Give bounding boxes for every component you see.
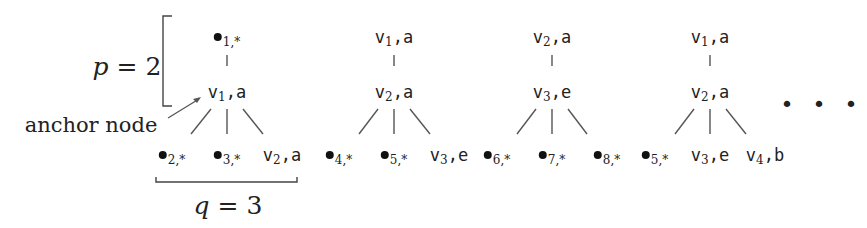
anchor-node-label: anchor node xyxy=(25,113,158,137)
tree-3-root-node: v2,a xyxy=(533,27,571,49)
null-node-dot-icon xyxy=(214,33,222,41)
null-node-dot-icon xyxy=(381,151,389,159)
tree-2-child-node: 4,* xyxy=(326,145,352,167)
tree-3-anchor-node: v3,e xyxy=(533,82,571,104)
tree-3-child-node: 7,* xyxy=(539,145,565,167)
tree-2-anchor-node: v2,a xyxy=(375,82,413,104)
ellipsis-more-trees: • • • xyxy=(781,92,864,117)
null-node-dot-icon xyxy=(594,151,602,159)
tree-4-child-node: v4,b xyxy=(746,145,784,167)
tree-1-child-node: v2,a xyxy=(263,145,301,167)
tree-1-child-node: 3,* xyxy=(214,145,240,167)
null-node-dot-icon xyxy=(159,151,167,159)
tree-4-anchor-node: v2,a xyxy=(691,82,729,104)
tree-3-child-node: 6,* xyxy=(484,145,510,167)
tree-4-root-node: v1,a xyxy=(691,27,729,49)
tree-1-root-node: 1,* xyxy=(214,27,240,49)
anchor-arrow xyxy=(168,99,199,118)
tree-2-child-node: 5,* xyxy=(381,145,407,167)
tree-1-anchor-node: v1,a xyxy=(208,82,246,104)
p-label: p = 2 xyxy=(93,52,162,81)
q-bracket xyxy=(156,177,297,182)
tree-4-child-node: v3,e xyxy=(691,145,729,167)
p-value: 2 xyxy=(145,52,161,81)
tree-4-child-node: 5,* xyxy=(642,145,668,167)
null-node-dot-icon xyxy=(642,151,650,159)
q-label: q = 3 xyxy=(194,191,263,220)
null-node-dot-icon xyxy=(326,151,334,159)
q-value: 3 xyxy=(246,191,262,220)
q-variable: q xyxy=(194,191,210,220)
tree-2-child-node: v3,e xyxy=(430,145,468,167)
tree-3-child-node: 8,* xyxy=(594,145,620,167)
null-node-dot-icon xyxy=(539,151,547,159)
p-variable: p xyxy=(93,52,109,81)
p-bracket xyxy=(163,16,172,106)
null-node-dot-icon xyxy=(484,151,492,159)
tree-2-root-node: v1,a xyxy=(375,27,413,49)
pq-gram-diagram: p = 2 anchor node q = 3 • • • 1,*v1,a2,*… xyxy=(0,0,867,228)
null-node-dot-icon xyxy=(214,151,222,159)
tree-1-child-node: 2,* xyxy=(159,145,185,167)
